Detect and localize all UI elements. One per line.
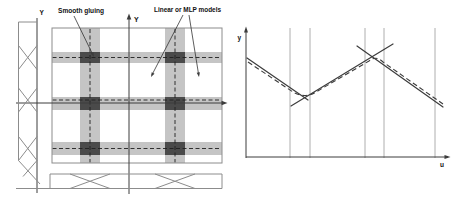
figure-canvas: Y Y Smo [0, 0, 465, 199]
linear-mlp-label: Linear or MLP models [154, 6, 221, 13]
right-y-axis: y [238, 27, 249, 159]
y-axis-arrow-icon [244, 27, 248, 33]
glued-smooth-model-curve [248, 58, 443, 104]
local-model-segment-2 [291, 44, 393, 106]
smooth-gluing-label: Smooth gluing [58, 7, 104, 15]
right-x-axis: u [246, 155, 451, 168]
left-diagram: Y Y Smo [16, 6, 228, 194]
figure-page: Y Y Smo [0, 0, 465, 199]
left-weight-strip: Y [19, 9, 45, 193]
right-x-axis-label: u [440, 161, 444, 168]
strip-bottom-closure [23, 161, 37, 177]
local-model-segment-3 [357, 46, 443, 107]
x-axis-arrow-icon [445, 155, 451, 159]
right-y-axis-label: y [238, 34, 242, 42]
local-model-segment-1 [247, 58, 308, 100]
x-axis-arrow-icon [222, 101, 228, 105]
y-axis-arrow-icon [127, 14, 132, 20]
main-y-axis-label: Y [134, 16, 139, 23]
right-diagram: y u [238, 27, 451, 169]
side-y-axis-label: Y [40, 9, 45, 16]
input-domain-grid [52, 28, 222, 163]
local-linear-models [247, 44, 443, 107]
bottom-weight-strip [16, 174, 222, 189]
